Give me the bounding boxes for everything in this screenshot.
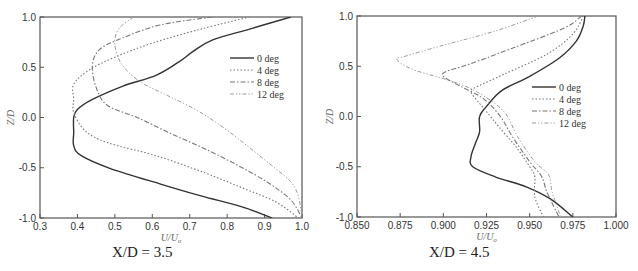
x-tick-label: 1.0 — [295, 221, 309, 232]
x-tick-label: 0.925 — [474, 220, 499, 231]
y-tick-label: 1.0 — [22, 12, 36, 23]
x-tick-label: 0.8 — [220, 221, 234, 232]
series-line-12-deg — [115, 17, 302, 218]
x-tick-label: 0.875 — [388, 220, 413, 231]
left-panel: 0.30.40.50.60.70.80.91.0-1.0-0.50.00.51.… — [0, 0, 319, 271]
legend-label: 12 deg — [257, 89, 284, 100]
x-tick-label: 0.6 — [145, 221, 159, 232]
x-tick-label: 0.4 — [70, 221, 84, 232]
x-axis-title: U/Uo — [476, 231, 497, 244]
series-line-4-deg — [73, 17, 299, 218]
y-tick-label: 1.0 — [339, 11, 353, 22]
caption-xd-3-5: X/D = 3.5 — [112, 244, 173, 261]
x-tick-label: 0.9 — [258, 221, 272, 232]
x-tick-label: 0.975 — [560, 220, 585, 231]
series-line-8-deg — [92, 17, 302, 218]
y-axis-title: Z/D — [5, 109, 16, 125]
legend-label: 0 deg — [257, 53, 279, 64]
series-line-0-deg — [73, 17, 291, 218]
legend-label: 8 deg — [257, 77, 279, 88]
series-line-12-deg — [396, 16, 560, 217]
legend-label: 4 deg — [257, 65, 279, 76]
y-axis-title: Z/D — [324, 108, 335, 124]
x-tick-label: 0.7 — [183, 221, 197, 232]
right-panel: 0.8500.8750.9000.9250.9500.9751.000-1.0-… — [319, 0, 638, 271]
y-tick-label: -1.0 — [336, 212, 354, 223]
y-tick-label: -1.0 — [19, 213, 37, 224]
chart-xd-3-5: 0.30.40.50.60.70.80.91.0-1.0-0.50.00.51.… — [0, 0, 319, 271]
chart-xd-4-5: 0.8500.8750.9000.9250.9500.9751.000-1.0-… — [319, 0, 638, 271]
x-tick-label: 0.950 — [517, 220, 542, 231]
y-tick-label: 0.0 — [22, 112, 36, 123]
legend-label: 4 deg — [559, 94, 581, 105]
y-tick-label: 0.5 — [22, 62, 36, 73]
plot-frame — [357, 16, 616, 217]
legend-label: 12 deg — [559, 118, 586, 129]
y-tick-label: -0.5 — [19, 162, 37, 173]
x-tick-label: 0.900 — [431, 220, 456, 231]
series-line-0-deg — [470, 16, 585, 217]
y-tick-label: 0.0 — [339, 111, 353, 122]
y-tick-label: -0.5 — [336, 161, 354, 172]
y-tick-label: 0.5 — [339, 61, 353, 72]
x-tick-label: 1.000 — [603, 220, 628, 231]
legend-label: 0 deg — [559, 82, 581, 93]
caption-xd-4-5: X/D = 4.5 — [429, 244, 490, 261]
x-tick-label: 0.5 — [108, 221, 122, 232]
series-line-8-deg — [442, 16, 581, 217]
legend-label: 8 deg — [559, 106, 581, 117]
